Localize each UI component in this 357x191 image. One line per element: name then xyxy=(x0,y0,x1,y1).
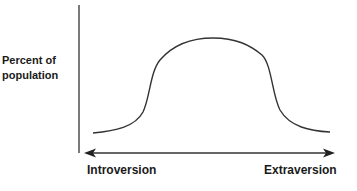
y-axis-label: Percent of population xyxy=(2,53,76,83)
x-axis-left-label: Introversion xyxy=(87,163,156,177)
bell-curve xyxy=(93,38,330,133)
y-axis-label-line1: Percent of xyxy=(2,53,76,68)
x-axis-right-label: Extraversion xyxy=(264,163,337,177)
y-axis-label-line2: population xyxy=(2,68,76,83)
